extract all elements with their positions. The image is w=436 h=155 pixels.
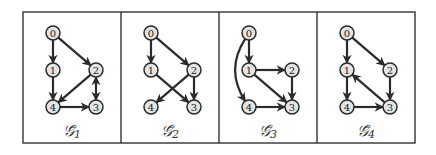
panel-label-g4: 𝒢̄4 [357, 121, 375, 141]
node-label: 0 [50, 28, 56, 39]
graph-node-3: 3 [383, 100, 397, 114]
panel-label-g2: 𝒢̄2 [161, 121, 179, 141]
edge-2-to-4 [58, 75, 90, 103]
graph-panel-g3: 01234𝒢̄3 [235, 26, 299, 141]
node-label: 4 [148, 102, 154, 113]
node-label: 2 [387, 65, 393, 76]
graph-panel-g4: 01234𝒢̄4 [340, 26, 397, 141]
graph-node-1: 1 [340, 63, 354, 77]
graph-node-3: 3 [89, 100, 103, 114]
node-label: 3 [93, 102, 99, 113]
graph-node-1: 1 [242, 63, 256, 77]
graph-node-0: 0 [242, 26, 256, 40]
node-label: 0 [344, 28, 350, 39]
edge-0-to-2 [58, 38, 90, 66]
graph-node-1: 1 [144, 63, 158, 77]
graph-node-0: 0 [46, 26, 60, 40]
node-label: 1 [148, 65, 154, 76]
node-label: 1 [50, 65, 56, 76]
node-label: 4 [50, 102, 56, 113]
graph-node-4: 4 [242, 100, 256, 114]
graph-node-4: 4 [46, 100, 60, 114]
node-label: 1 [246, 65, 252, 76]
edge-0-to-2 [156, 38, 188, 66]
node-label: 0 [246, 28, 252, 39]
node-label: 3 [191, 102, 197, 113]
graph-node-2: 2 [285, 63, 299, 77]
graph-node-0: 0 [144, 26, 158, 40]
graph-panel-g1: 01234𝒢̄1 [46, 26, 103, 141]
graph-node-2: 2 [383, 63, 397, 77]
node-label: 4 [246, 102, 252, 113]
node-label: 0 [148, 28, 154, 39]
node-label: 2 [93, 65, 99, 76]
node-label: 2 [289, 65, 295, 76]
graph-node-3: 3 [285, 100, 299, 114]
graph-figure: 01234𝒢̄101234𝒢̄201234𝒢̄301234𝒢̄4 [0, 0, 436, 155]
graph-node-4: 4 [340, 100, 354, 114]
graph-panel-g2: 01234𝒢̄2 [144, 26, 201, 141]
graph-node-0: 0 [340, 26, 354, 40]
edge-1-to-3 [254, 75, 286, 103]
node-label: 3 [289, 102, 295, 113]
node-label: 1 [344, 65, 350, 76]
graph-node-2: 2 [187, 63, 201, 77]
graph-node-3: 3 [187, 100, 201, 114]
graph-node-1: 1 [46, 63, 60, 77]
node-label: 3 [387, 102, 393, 113]
node-label: 4 [344, 102, 350, 113]
edge-3-to-1 [352, 75, 384, 103]
graph-node-2: 2 [89, 63, 103, 77]
node-label: 2 [191, 65, 197, 76]
edge-0-to-2 [352, 38, 384, 66]
graph-node-4: 4 [144, 100, 158, 114]
panel-label-g3: 𝒢̄3 [259, 121, 277, 141]
panel-label-g1: 𝒢̄1 [63, 121, 81, 141]
